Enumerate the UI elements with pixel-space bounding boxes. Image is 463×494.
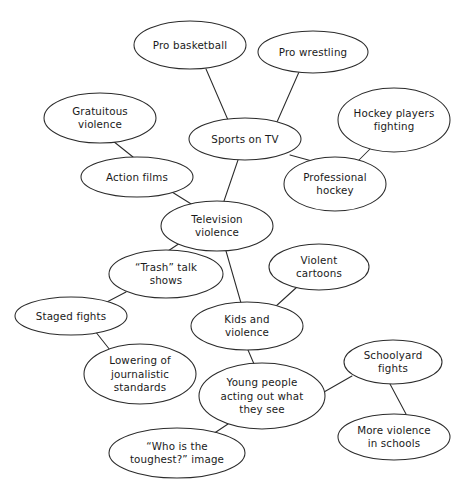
node-young-people-acting-out[interactable]: Young peopleacting out whatthey see bbox=[199, 363, 325, 429]
node-label-pro-basketball: Pro basketball bbox=[153, 39, 227, 51]
mind-map-canvas: Pro basketballPro wrestlingHockey player… bbox=[0, 0, 463, 494]
node-violent-cartoons[interactable]: Violentcartoons bbox=[269, 244, 369, 290]
node-staged-fights[interactable]: Staged fights bbox=[15, 297, 127, 335]
node-pro-wrestling[interactable]: Pro wrestling bbox=[258, 31, 368, 73]
node-gratuitous-violence[interactable]: Gratuitousviolence bbox=[44, 93, 156, 143]
node-label-more-violence-in-schools: More violencein schools bbox=[357, 424, 431, 449]
node-action-films[interactable]: Action films bbox=[81, 157, 193, 197]
node-label-pro-wrestling: Pro wrestling bbox=[279, 46, 348, 58]
connector-line-television-violence-to-kids-and-violence bbox=[226, 251, 241, 303]
node-label-staged-fights: Staged fights bbox=[36, 310, 106, 322]
node-label-television-violence: Televisionviolence bbox=[190, 213, 243, 238]
connector-line-sports-on-tv-to-television-violence bbox=[224, 160, 238, 201]
connector-line-sports-on-tv-to-professional-hockey bbox=[290, 155, 312, 161]
connector-line-gratuitous-violence-to-action-films bbox=[113, 141, 133, 157]
node-label-gratuitous-violence: Gratuitousviolence bbox=[72, 105, 128, 130]
node-schoolyard-fights[interactable]: Schoolyardfights bbox=[344, 340, 442, 384]
connector-line-staged-fights-to-lowering-journalistic-standards bbox=[95, 331, 110, 350]
nodes-group: Pro basketballPro wrestlingHockey player… bbox=[15, 21, 450, 478]
node-pro-basketball[interactable]: Pro basketball bbox=[134, 21, 246, 69]
node-professional-hockey[interactable]: Professionalhockey bbox=[284, 157, 386, 211]
connector-line-sports-on-tv-to-pro-wrestling bbox=[277, 72, 299, 122]
node-label-kids-and-violence: Kids andviolence bbox=[224, 313, 269, 338]
connector-line-kids-and-violence-to-young-people-acting-out bbox=[248, 350, 254, 364]
connector-line-sports-on-tv-to-pro-basketball bbox=[206, 69, 228, 120]
node-label-action-films: Action films bbox=[106, 171, 168, 183]
node-label-lowering-journalistic-standards: Lowering ofjournalisticstandards bbox=[109, 354, 171, 392]
connector-line-schoolyard-fights-to-more-violence-in-schools bbox=[390, 384, 406, 414]
node-television-violence[interactable]: Televisionviolence bbox=[161, 201, 273, 251]
node-hockey-players-fighting[interactable]: Hockey playersfighting bbox=[338, 88, 450, 152]
node-kids-and-violence[interactable]: Kids andviolence bbox=[191, 302, 303, 350]
node-sports-on-tv[interactable]: Sports on TV bbox=[189, 118, 301, 160]
node-lowering-journalistic-standards[interactable]: Lowering ofjournalisticstandards bbox=[84, 344, 196, 404]
node-more-violence-in-schools[interactable]: More violencein schools bbox=[338, 414, 450, 460]
connector-line-kids-and-violence-to-violent-cartoons bbox=[275, 287, 297, 307]
node-label-sports-on-tv: Sports on TV bbox=[211, 133, 279, 145]
node-label-violent-cartoons: Violentcartoons bbox=[296, 254, 342, 279]
node-trash-talk-shows[interactable]: “Trash” talkshows bbox=[109, 250, 223, 298]
mind-map-svg: Pro basketballPro wrestlingHockey player… bbox=[0, 0, 463, 494]
node-who-is-the-toughest-image[interactable]: “Who is thetoughest?” image bbox=[109, 428, 245, 478]
connector-line-young-people-acting-out-to-schoolyard-fights bbox=[324, 376, 352, 392]
